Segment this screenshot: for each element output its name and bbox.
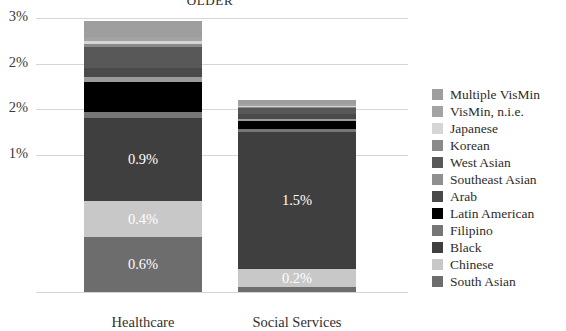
legend-swatch (432, 225, 443, 236)
legend-item[interactable]: Multiple VisMin (432, 86, 566, 103)
legend-swatch (432, 157, 443, 168)
chart-legend: Multiple VisMinVisMin, n.i.e.JapaneseKor… (432, 86, 566, 290)
y-axis-tick-label: 2% (0, 54, 28, 71)
axis-baseline (36, 292, 408, 293)
bar-segment[interactable]: 0.6% (84, 237, 202, 292)
legend-label: Black (450, 241, 482, 255)
y-axis-tick-label: 2% (0, 99, 28, 116)
bar-segment[interactable] (238, 287, 356, 292)
legend-label: South Asian (450, 275, 516, 289)
legend-item[interactable]: Arab (432, 188, 566, 205)
x-axis-tick-label: Healthcare (53, 314, 233, 331)
legend-label: Latin American (450, 207, 534, 221)
bar-segment-value-label: 1.5% (282, 193, 312, 208)
bar-stack: 1.5%0.2% (238, 100, 356, 292)
bar-segment[interactable] (238, 121, 356, 128)
legend-item[interactable]: Latin American (432, 205, 566, 222)
bar-segment-value-label: 0.2% (282, 271, 312, 286)
legend-swatch (432, 242, 443, 253)
bar-segment[interactable]: 0.4% (84, 201, 202, 238)
bar-segment[interactable] (84, 47, 202, 68)
bar-segment-value-label: 0.4% (128, 212, 158, 227)
bar-segment[interactable]: 0.2% (238, 269, 356, 287)
legend-item[interactable]: Japanese (432, 120, 566, 137)
legend-label: VisMin, n.i.e. (450, 105, 524, 119)
legend-swatch (432, 174, 443, 185)
legend-item[interactable]: Filipino (432, 222, 566, 239)
legend-item[interactable]: Chinese (432, 256, 566, 273)
legend-item[interactable]: Black (432, 239, 566, 256)
legend-item[interactable]: South Asian (432, 273, 566, 290)
bar-group[interactable]: 1.5%0.2% (238, 18, 356, 292)
legend-item[interactable]: Southeast Asian (432, 171, 566, 188)
legend-swatch (432, 123, 443, 134)
legend-swatch (432, 106, 443, 117)
legend-item[interactable]: VisMin, n.i.e. (432, 103, 566, 120)
bar-segment[interactable] (84, 21, 202, 37)
bar-segment[interactable] (84, 82, 202, 112)
legend-label: Filipino (450, 224, 493, 238)
legend-label: Southeast Asian (450, 173, 537, 187)
bar-group[interactable]: 0.9%0.4%0.6% (84, 18, 202, 292)
y-axis-tick-label: 3% (0, 8, 28, 25)
legend-swatch (432, 191, 443, 202)
legend-swatch (432, 208, 443, 219)
legend-label: Chinese (450, 258, 494, 272)
legend-label: Korean (450, 139, 490, 153)
legend-swatch (432, 259, 443, 270)
legend-swatch (432, 276, 443, 287)
legend-label: Multiple VisMin (450, 88, 540, 102)
legend-label: Japanese (450, 122, 498, 136)
legend-label: Arab (450, 190, 477, 204)
y-axis-tick-label: 1% (0, 145, 28, 162)
legend-item[interactable]: Korean (432, 137, 566, 154)
bar-segment[interactable] (84, 68, 202, 77)
legend-item[interactable]: West Asian (432, 154, 566, 171)
x-axis-tick-label: Social Services (207, 314, 387, 331)
bar-segment[interactable]: 1.5% (238, 132, 356, 269)
bar-segment-value-label: 0.6% (128, 257, 158, 272)
chart-title: OLDER (0, 0, 420, 9)
bar-stack: 0.9%0.4%0.6% (84, 21, 202, 292)
plot-area: 1%2%2%3% 0.9%0.4%0.6%1.5%0.2% Healthcare… (36, 18, 408, 292)
bar-segment[interactable]: 0.9% (84, 118, 202, 200)
legend-swatch (432, 140, 443, 151)
legend-label: West Asian (450, 156, 511, 170)
bar-segment-value-label: 0.9% (128, 152, 158, 167)
legend-swatch (432, 89, 443, 100)
